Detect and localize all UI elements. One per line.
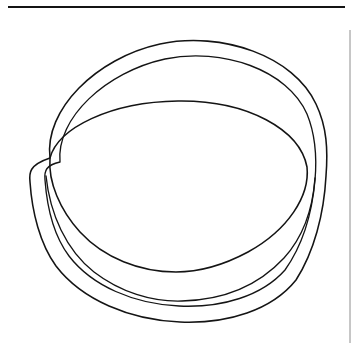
figure-page <box>0 0 358 343</box>
line-art-figure <box>0 0 358 343</box>
page-background <box>0 0 358 343</box>
